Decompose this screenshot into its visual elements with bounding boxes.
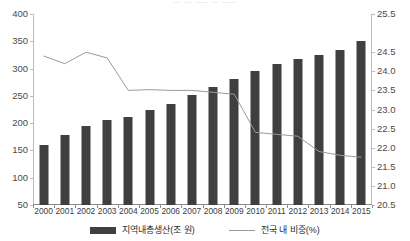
right-axis-tick-label: 24.5 [377,47,396,57]
right-axis-tick-label: 23.5 [377,85,396,95]
right-axis-tick-label: 20.5 [377,200,396,210]
legend-label-national-share: 전국 내 비중(%) [261,225,320,235]
right-tick-mark [372,167,375,168]
left-axis-tick-label: 250 [12,91,28,101]
chart-title-remnant: ㅡ ㅡ ㅡㅡ ㅡ ㅡㅡ [0,0,410,7]
right-axis-tick-label: 21.5 [377,162,396,172]
right-axis-tick-label: 22.5 [377,124,396,134]
x-axis-label-2011: 2011 [268,207,286,216]
legend-item-national-share: 전국 내 비중(%) [229,225,320,235]
left-axis-tick-label: 350 [12,36,28,46]
x-axis-label-2001: 2001 [55,207,74,216]
legend-line-swatch-icon [229,227,255,234]
right-tick-mark [372,110,375,111]
plot-area: 50100150200250300350400 20.521.021.522.0… [33,14,372,205]
right-axis-tick-label: 23.0 [377,105,396,115]
legend-bar-swatch-icon [90,227,116,234]
right-tick-mark [372,90,375,91]
right-tick-mark [372,71,375,72]
x-axis-label-2015: 2015 [352,207,371,216]
x-axis-label-2009: 2009 [225,207,244,216]
x-axis-label-2010: 2010 [246,207,265,216]
left-axis-tick-label: 100 [12,173,28,183]
chart-legend: 지역내총생산(조 원) 전국 내 비중(%) [0,222,410,238]
left-axis-tick-label: 50 [17,200,28,210]
x-axis-label-2007: 2007 [183,207,202,216]
right-axis-tick-label: 22.0 [377,143,396,153]
right-tick-mark [372,186,375,187]
x-axis-label-2012: 2012 [289,207,308,216]
x-axis-label-2013: 2013 [310,207,329,216]
legend-label-gross-regional-product: 지역내총생산(조 원) [122,225,195,235]
x-axis-label-2014: 2014 [331,207,350,216]
right-axis-tick-label: 25.5 [377,9,396,19]
x-axis-label-2002: 2002 [77,207,96,216]
right-axis-tick-label: 21.0 [377,181,396,191]
right-tick-mark [372,14,375,15]
line-series-전국내비중 [33,14,372,205]
x-axis-label-2003: 2003 [98,207,117,216]
line-path-national-share [44,52,362,157]
right-tick-mark [372,148,375,149]
x-axis-label-2005: 2005 [140,207,159,216]
left-axis-tick-label: 150 [12,145,28,155]
x-axis-label-2000: 2000 [34,207,53,216]
left-axis-tick-label: 300 [12,64,28,74]
x-axis-label-2008: 2008 [204,207,223,216]
chart-figure: ㅡ ㅡ ㅡㅡ ㅡ ㅡㅡ 50100150200250300350400 20.5… [0,0,410,241]
right-tick-mark [372,129,375,130]
left-axis-tick-label: 400 [12,9,28,19]
left-axis-tick-label: 200 [12,118,28,128]
right-tick-mark [372,52,375,53]
x-axis-label-2004: 2004 [119,207,138,216]
right-axis-tick-label: 24.0 [377,66,396,76]
x-tick-mark [372,205,373,208]
legend-item-gross-regional-product: 지역내총생산(조 원) [90,225,195,235]
x-axis-label-2006: 2006 [161,207,180,216]
